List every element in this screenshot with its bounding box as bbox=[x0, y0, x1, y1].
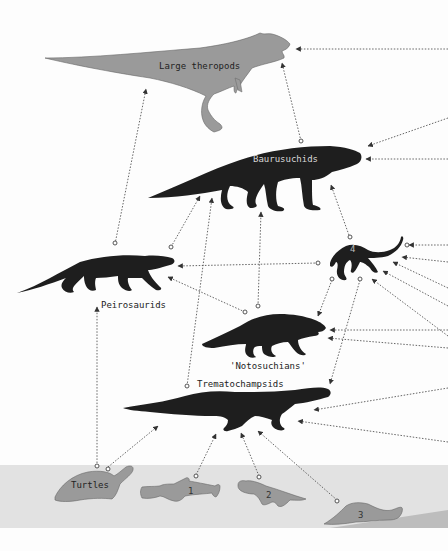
trematochampsid-silhouette bbox=[123, 387, 331, 431]
label-taxon-3: 3 bbox=[358, 510, 363, 520]
label-trematochampsids: Trematochampsids bbox=[197, 379, 284, 389]
label-taxon-4: 4 bbox=[350, 244, 355, 254]
label-taxon-1: 1 bbox=[188, 486, 193, 496]
label-taxon-2: 2 bbox=[266, 490, 271, 500]
notosuchian-silhouette bbox=[202, 314, 326, 358]
label-peirosaurids: Peirosaurids bbox=[101, 300, 166, 310]
food-web-diagram: Large theropods Baurusuchids Peirosaurid… bbox=[0, 0, 448, 551]
peirosaurid-silhouette bbox=[17, 255, 174, 293]
food-web-svg bbox=[0, 0, 448, 551]
taxon-4-silhouette bbox=[330, 236, 403, 280]
large-theropod-silhouette bbox=[45, 33, 290, 132]
label-turtles: Turtles bbox=[71, 480, 109, 490]
label-baurusuchids: Baurusuchids bbox=[253, 154, 318, 164]
label-notosuchians: 'Notosuchians' bbox=[230, 361, 306, 371]
label-large-theropods: Large theropods bbox=[159, 61, 240, 71]
